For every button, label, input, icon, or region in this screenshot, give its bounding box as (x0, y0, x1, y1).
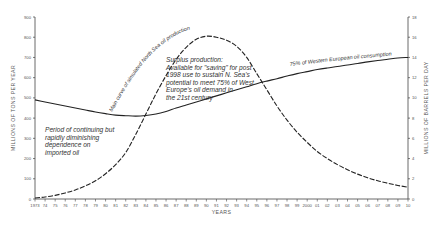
y-tick-label: 600 (24, 75, 32, 80)
x-tick-label: 96 (265, 203, 270, 208)
y-tick-label: 0 (29, 197, 32, 202)
y2-tick-label: 6 (412, 136, 415, 141)
x-tick-label: 97 (275, 203, 280, 208)
y2-tick-label: 18 (412, 15, 417, 20)
x-tick-label: 03 (335, 203, 340, 208)
x-tick-label: 74 (43, 203, 48, 208)
y2-tick-label: 14 (412, 55, 417, 60)
annotations: YEARSMILLIONS OF TONS PER YEARMILLIONS O… (10, 25, 429, 215)
x-tick-label: 81 (113, 203, 118, 208)
x-tick-label: 85 (154, 203, 159, 208)
x-tick-label: 82 (123, 203, 128, 208)
x-tick-label: 84 (144, 203, 149, 208)
chart: 0100200300400500600700800900024681012141… (0, 0, 438, 232)
y2-tick-label: 0 (412, 197, 415, 202)
ticks: 0100200300400500600700800900024681012141… (24, 15, 417, 209)
x-tick-label: 93 (234, 203, 239, 208)
x-tick-label: 92 (224, 203, 229, 208)
y2-tick-label: 2 (412, 176, 415, 181)
dependence-note: imported oil (45, 149, 80, 157)
x-tick-label: 75 (53, 203, 58, 208)
y-tick-label: 100 (24, 176, 32, 181)
x-tick-label: 01 (315, 203, 320, 208)
y2-tick-label: 4 (412, 156, 415, 161)
x-tick-label: 76 (63, 203, 68, 208)
x-tick-label: 06 (365, 203, 370, 208)
x-tick-label: 98 (285, 203, 290, 208)
x-tick-label: 95 (254, 203, 259, 208)
y2-tick-label: 12 (412, 75, 417, 80)
y-axis-title: MILLIONS OF TONS PER YEAR (10, 65, 16, 151)
x-tick-label: 88 (184, 203, 189, 208)
x-tick-label: 86 (164, 203, 169, 208)
x-tick-label: 87 (174, 203, 179, 208)
x-tick-label: 1973 (30, 203, 40, 208)
y-tick-label: 300 (24, 136, 32, 141)
x-tick-label: 78 (83, 203, 88, 208)
y2-tick-label: 8 (412, 116, 415, 121)
x-tick-label: 94 (244, 203, 249, 208)
x-tick-label: 90 (204, 203, 209, 208)
x-tick-label: 08 (386, 203, 391, 208)
surplus-note: the 21st century (166, 94, 214, 102)
x-tick-label: 91 (214, 203, 219, 208)
y-tick-label: 500 (24, 95, 32, 100)
x-tick-label: 80 (103, 203, 108, 208)
x-tick-label: 09 (396, 203, 401, 208)
consumption-curve-label: 75% of Western European oil consumption (289, 51, 391, 67)
x-tick-label: 2000 (303, 203, 313, 208)
x-tick-label: 10 (406, 203, 411, 208)
y-tick-label: 900 (24, 15, 32, 20)
x-tick-label: 77 (73, 203, 78, 208)
x-tick-label: 89 (194, 203, 199, 208)
x-tick-label: 05 (355, 203, 360, 208)
x-tick-label: 99 (295, 203, 300, 208)
surplus-note: 1998 use to sustain N. Sea's (166, 71, 250, 78)
x-tick-label: 02 (325, 203, 330, 208)
x-tick-label: 07 (375, 203, 380, 208)
x-tick-label: 79 (93, 203, 98, 208)
x-tick-label: 83 (133, 203, 138, 208)
y-tick-label: 800 (24, 35, 32, 40)
y-tick-label: 700 (24, 55, 32, 60)
y2-axis-title: MILLIONS OF BARRELS PER DAY (423, 61, 429, 154)
x-axis-title: YEARS (212, 209, 232, 215)
curves (35, 27, 408, 198)
x-tick-label: 04 (345, 203, 350, 208)
y2-tick-label: 10 (412, 95, 417, 100)
y2-tick-label: 16 (412, 35, 417, 40)
y-tick-label: 400 (24, 116, 32, 121)
y-tick-label: 200 (24, 156, 32, 161)
